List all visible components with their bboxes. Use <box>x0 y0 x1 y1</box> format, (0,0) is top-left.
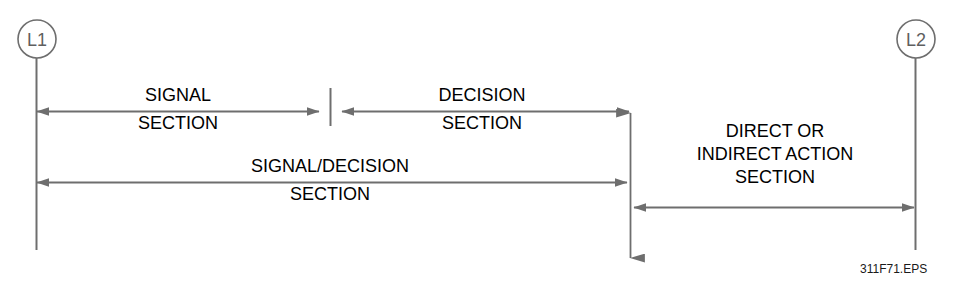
dimension-label-line-2: SECTION <box>438 112 525 135</box>
dimension-label-line-1: DECISION <box>438 84 525 107</box>
dimension-label-line-2: SECTION <box>251 183 409 206</box>
dimension-label-line-2: INDIRECT ACTION <box>697 143 854 166</box>
figure-file-reference: 311F71.EPS <box>860 263 927 275</box>
dimension-diagram: L1 L2 SIGNAL SECTION DECISION SECTION SI… <box>0 0 953 292</box>
node-label-l1: L1 <box>27 31 47 49</box>
dimension-label-line-1: SIGNAL/DECISION <box>251 155 409 178</box>
dimension-label-direct-indirect-action-section: DIRECT OR INDIRECT ACTION SECTION <box>697 120 854 189</box>
dimension-label-signal-section: SIGNAL SECTION <box>138 84 218 135</box>
node-label-l2: L2 <box>906 31 926 49</box>
dimension-label-signal-decision-section: SIGNAL/DECISION SECTION <box>251 155 409 206</box>
dimension-label-line-1: DIRECT OR <box>697 120 854 143</box>
dimension-label-line-1: SIGNAL <box>138 84 218 107</box>
dimension-label-line-2: SECTION <box>138 112 218 135</box>
dimension-label-decision-section: DECISION SECTION <box>438 84 525 135</box>
dimension-label-line-3: SECTION <box>697 166 854 189</box>
